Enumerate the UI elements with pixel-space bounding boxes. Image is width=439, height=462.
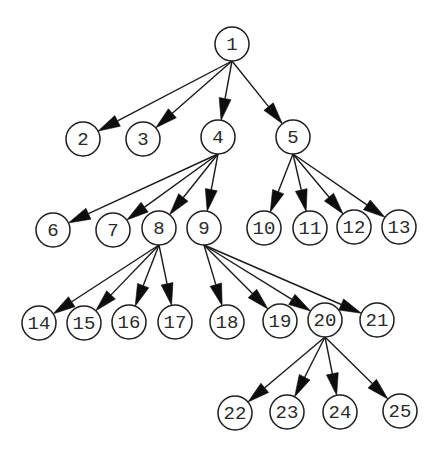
edge-line [232,61,269,107]
tree-node-15: 15 [67,306,101,340]
tree-node-10: 10 [247,211,281,245]
tree-node-4: 4 [201,120,235,154]
edge-line [111,245,159,295]
node-label: 13 [388,217,411,239]
tree-node-3: 3 [126,122,160,156]
arrowhead-icon [205,189,217,212]
arrowhead-icon [339,299,362,313]
node-label: 20 [314,310,337,332]
tree-node-13: 13 [382,210,416,244]
tree-node-9: 9 [187,211,221,245]
node-label: 25 [389,401,412,423]
node-label: 4 [212,127,223,149]
arrowhead-icon [295,374,310,396]
node-label: 15 [73,313,96,335]
arrowhead-icon [324,193,343,214]
node-label: 14 [28,313,51,335]
edge-line [204,245,341,304]
edge-line [305,337,325,377]
node-label: 3 [137,129,148,151]
tree-node-1: 1 [215,27,249,61]
arrowhead-icon [326,373,338,396]
tree-node-7: 7 [96,213,130,247]
node-label: 11 [299,218,322,240]
tree-node-18: 18 [210,305,244,339]
arrowhead-icon [98,116,120,132]
tree-node-25: 25 [383,394,417,428]
node-label: 16 [118,312,141,334]
arrowhead-icon [295,189,307,212]
edge-line [265,337,325,388]
tree-node-11: 11 [293,211,327,245]
tree-diagram: 1234567891011121314151617181920212223242… [0,0,439,462]
edge-8-to-17 [159,245,173,305]
node-label: 6 [47,220,58,242]
arrowhead-icon [248,383,269,402]
edge-5-to-10 [270,154,293,212]
edge-9-to-21 [204,245,361,313]
tree-node-12: 12 [337,210,371,244]
node-label: 10 [253,218,276,240]
node-label: 17 [164,312,187,334]
edge-20-to-23 [295,337,325,397]
node-label: 22 [224,403,247,425]
node-label: 23 [276,402,299,424]
tree-node-16: 16 [112,305,146,339]
edge-20-to-24 [325,337,338,395]
node-label: 7 [107,220,118,242]
tree-node-20: 20 [308,303,342,337]
arrowhead-icon [264,103,282,124]
tree-node-19: 19 [263,304,297,338]
edge-8-to-15 [96,245,159,311]
tree-node-21: 21 [360,303,394,337]
node-label: 8 [153,218,164,240]
arrowhead-icon [68,208,90,223]
node-label: 18 [216,312,239,334]
node-label: 1 [226,34,237,56]
edge-1-to-5 [232,61,282,124]
arrowhead-icon [219,98,231,121]
tree-node-17: 17 [158,305,192,339]
edge-20-to-22 [248,337,325,402]
tree-node-22: 22 [218,396,252,430]
arrowhead-icon [161,283,173,306]
arrowhead-icon [270,189,284,212]
tree-node-6: 6 [36,213,70,247]
tree-node-2: 2 [66,122,100,156]
edge-line [159,245,167,284]
node-label: 2 [77,129,88,151]
tree-node-5: 5 [276,120,310,154]
node-label: 5 [287,127,298,149]
tree-node-24: 24 [323,395,357,429]
edge-line [143,245,159,286]
arrowhead-icon [170,194,188,215]
node-label: 9 [198,218,209,240]
edge-line [278,154,293,192]
tree-node-14: 14 [22,306,56,340]
edge-line [72,245,159,302]
edge-line [88,154,218,214]
node-label: 19 [269,311,292,333]
tree-node-23: 23 [270,395,304,429]
arrowhead-icon [135,283,149,306]
arrowhead-icon [210,283,222,306]
tree-node-8: 8 [142,211,176,245]
node-label: 21 [366,310,389,332]
edge-8-to-16 [135,245,159,306]
node-label: 24 [329,402,352,424]
node-label: 12 [343,217,366,239]
